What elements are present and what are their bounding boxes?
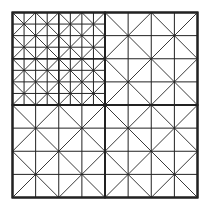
tiling-diagram [0, 0, 209, 209]
